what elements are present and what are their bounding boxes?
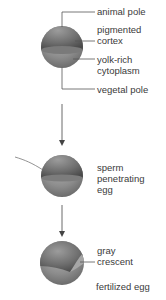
label-sperm-line2: penetrating xyxy=(97,173,145,184)
label-yolk-rich-line1: yolk-rich xyxy=(97,54,132,65)
label-animal-pole: animal pole xyxy=(97,6,146,17)
egg-stage-1 xyxy=(38,12,95,89)
label-vegetal-pole: vegetal pole xyxy=(97,84,148,95)
label-yolk-rich-line2: cytoplasm xyxy=(97,65,140,76)
egg-stage-3 xyxy=(38,240,95,285)
label-pigmented-cortex-line1: pigmented xyxy=(97,24,141,35)
egg-stage-2 xyxy=(15,150,88,197)
arrow-down-icon xyxy=(59,205,65,237)
label-pigmented-cortex-line2: cortex xyxy=(97,35,123,46)
diagram-canvas xyxy=(0,0,166,300)
label-gray-crescent-line1: gray xyxy=(97,245,115,256)
label-fertilized-egg: fertilized egg xyxy=(96,281,150,292)
label-sperm-line3: egg xyxy=(97,184,113,195)
label-sperm-line1: sperm xyxy=(97,162,123,173)
label-gray-crescent-line2: crescent xyxy=(97,256,133,267)
arrow-down-icon xyxy=(59,104,65,146)
